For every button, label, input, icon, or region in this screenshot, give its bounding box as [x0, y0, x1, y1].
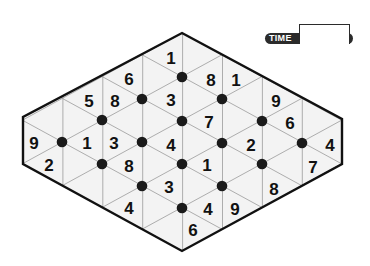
clue-digit: 3: [109, 134, 118, 153]
clue-digit: 8: [206, 71, 215, 90]
clue-digit: 1: [166, 49, 175, 68]
clue-digit: 7: [204, 113, 213, 132]
clue-digit: 1: [231, 71, 240, 90]
clue-digit: 8: [110, 92, 119, 111]
junction-dot: [297, 138, 308, 149]
clue-digit: 4: [124, 199, 134, 218]
puzzle-stage: TIME 16815839769134242817384496: [0, 0, 370, 266]
junction-dot: [217, 138, 228, 149]
junction-dot: [137, 137, 148, 148]
junction-dot: [217, 94, 228, 105]
junction-dot: [97, 159, 108, 170]
junction-dot: [257, 159, 268, 170]
grid-line: [0, 0, 370, 5]
clue-digit: 4: [203, 200, 213, 219]
junction-dot: [57, 137, 68, 148]
clue-digit: 5: [84, 92, 93, 111]
junction-dot: [177, 72, 188, 83]
clue-digit: 7: [308, 158, 317, 177]
junction-dot: [137, 94, 148, 105]
junction-dot: [177, 116, 188, 127]
junction-dot: [97, 115, 108, 126]
clue-digit: 2: [44, 156, 53, 175]
junction-dot: [137, 181, 148, 192]
clue-digit: 9: [29, 134, 38, 153]
clue-digit: 8: [124, 157, 133, 176]
junction-dot: [177, 203, 188, 214]
clue-digit: 3: [166, 91, 175, 110]
junction-dot: [257, 116, 268, 127]
clue-digit: 2: [246, 136, 255, 155]
clue-digit: 3: [164, 178, 173, 197]
clue-digit: 1: [202, 156, 211, 175]
clue-digit: 6: [285, 114, 294, 133]
clue-digit: 4: [166, 136, 176, 155]
clue-digit: 4: [325, 136, 335, 155]
puzzle-board[interactable]: 16815839769134242817384496: [0, 0, 370, 266]
clue-digit: 9: [230, 200, 239, 219]
grid-line: [0, 0, 370, 2]
clue-digit: 9: [271, 92, 280, 111]
junction-dot: [217, 181, 228, 192]
clue-digit: 6: [124, 70, 133, 89]
clue-digit: 6: [188, 221, 197, 240]
clue-digit: 1: [82, 134, 91, 153]
junction-dot: [177, 159, 188, 170]
clue-digit: 8: [269, 180, 278, 199]
